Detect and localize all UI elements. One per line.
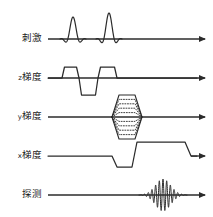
waveform-y-gradient [48,95,205,139]
pulse-sequence-diagram: 刺激 z梯度 y梯度 x梯度 探测 [0,0,213,217]
waveform-detection [48,179,205,211]
waveform-canvas [0,0,213,217]
waveform-x-gradient [48,142,205,167]
waveform-excitation [48,13,205,43]
waveform-z-gradient [48,67,205,95]
